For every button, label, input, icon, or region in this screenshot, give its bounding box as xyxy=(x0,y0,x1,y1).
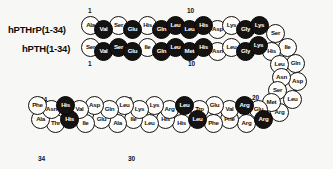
residue-code: Lys xyxy=(135,106,145,112)
residue-code: Leu xyxy=(144,120,154,126)
residue-code: Gly xyxy=(241,26,250,32)
residue-bead-pth-20: Arg xyxy=(235,96,254,115)
residue-code: Leu xyxy=(226,44,236,50)
residue-bead-pthrp-20: Arg xyxy=(254,110,273,129)
residue-code: Met xyxy=(185,48,195,54)
residue-code: Thr xyxy=(51,120,60,126)
residue-code: Leu xyxy=(179,102,189,108)
residue-code: His xyxy=(267,48,276,54)
residue-number-pth-30: 30 xyxy=(128,155,135,162)
residue-code: Asp xyxy=(89,102,100,108)
residue-code: Lys xyxy=(254,42,264,48)
residue-code: Arg xyxy=(259,116,269,122)
residue-code: His xyxy=(61,102,70,108)
residue-code: Val xyxy=(99,26,107,32)
residue-bead-pth-24: Leu xyxy=(175,96,194,115)
residue-code: Leu xyxy=(274,61,284,67)
residue-bead-pthrp-2: Val xyxy=(94,20,113,39)
residue-bead-pthrp-9: His xyxy=(194,16,213,35)
residue-bead-pth-13: Lys xyxy=(249,36,268,55)
residue-number-pth-10: 10 xyxy=(188,60,195,67)
residue-code: Ile xyxy=(285,44,291,50)
residue-code: Asn xyxy=(276,74,287,80)
residue-code: His xyxy=(199,22,208,28)
residue-code: Arg xyxy=(165,106,175,112)
residue-code: Gly xyxy=(241,48,250,54)
residue-bead-pth-34: Phe xyxy=(28,96,47,115)
residue-bead-pthrp-24: Leu xyxy=(188,110,207,129)
residue-code: Gln xyxy=(157,48,166,54)
residue-code: Glu xyxy=(128,26,137,32)
residue-code: Val xyxy=(75,106,83,112)
residue-code: His xyxy=(143,22,152,28)
residue-code: Phe xyxy=(32,102,42,108)
residue-code: Gln xyxy=(105,106,114,112)
residue-bead-pthrp-4: Glu xyxy=(123,20,142,39)
residue-code: Ile xyxy=(145,44,151,50)
residue-code: Ser xyxy=(271,30,280,36)
residue-code: His xyxy=(199,44,208,50)
residue-code: Gln xyxy=(157,26,166,32)
chain-label-pthrp: hPTHrP(1-34) xyxy=(8,24,66,35)
residue-code: Arg xyxy=(242,120,252,126)
residue-code: Leu xyxy=(184,26,194,32)
residue-number-pth-34: 34 xyxy=(38,155,45,162)
residue-code: Ile xyxy=(83,120,89,126)
residue-code: Ser xyxy=(114,22,123,28)
residue-code: Met xyxy=(267,99,277,105)
residue-code: Leu xyxy=(119,102,129,108)
residue-code: Asp xyxy=(292,78,303,84)
residue-code: His xyxy=(65,116,74,122)
residue-code: Phe xyxy=(208,120,218,126)
residue-number-pthrp-10: 10 xyxy=(187,7,194,14)
residue-code: Ala xyxy=(36,116,45,122)
residue-code: His xyxy=(177,120,186,126)
residue-code: Ser xyxy=(114,44,123,50)
residue-code: Lys xyxy=(227,22,237,28)
residue-code: Arg xyxy=(240,102,250,108)
residue-code: Glu xyxy=(128,48,137,54)
residue-code: Val xyxy=(99,48,107,54)
residue-bead-pth-32: His xyxy=(56,96,75,115)
residue-code: Leu xyxy=(287,96,297,102)
residue-code: Lys xyxy=(150,102,160,108)
residue-code: Gln xyxy=(291,60,300,66)
residue-code: Lys xyxy=(255,22,265,28)
residue-code: Val xyxy=(225,106,233,112)
residue-bead-pth-9: His xyxy=(194,38,213,57)
residue-number-pthrp-1: 1 xyxy=(88,7,92,14)
residue-number-pth-1: 1 xyxy=(88,60,92,67)
residue-code: Leu xyxy=(192,116,202,122)
peptide-alignment-figure: hPTHrP(1-34) hPTH(1-34) 1101102020343034… xyxy=(0,0,333,169)
residue-bead-pth-4: Glu xyxy=(123,42,142,61)
residue-bead-pthrp-13: Lys xyxy=(250,16,269,35)
residue-code: Ala xyxy=(113,120,122,126)
residue-code: Leu xyxy=(170,22,180,28)
chain-label-pth: hPTH(1-34) xyxy=(22,43,70,54)
residue-code: Glu xyxy=(210,102,219,108)
residue-code: Leu xyxy=(170,44,180,50)
